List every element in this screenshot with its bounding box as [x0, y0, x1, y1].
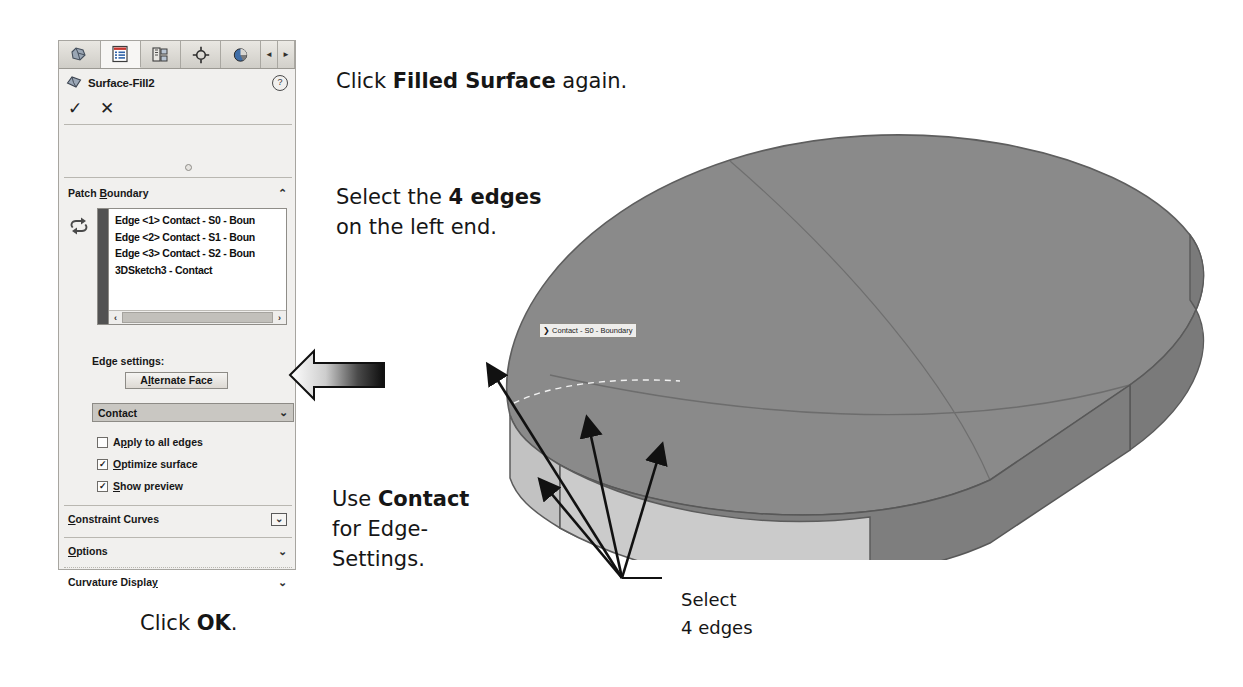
feature-header: Surface-Fill2 ? — [59, 69, 295, 96]
scroll-left-icon[interactable]: ‹ — [109, 313, 122, 323]
tree-icon — [69, 46, 89, 64]
chevron-down-icon[interactable]: ⌄ — [271, 513, 287, 526]
chevron-down-icon[interactable]: ⌄ — [278, 546, 287, 556]
divider-constraint-curves — [64, 505, 292, 506]
leader-arrow-3 — [587, 418, 622, 578]
chevron-up-icon[interactable]: ⌃ — [278, 188, 287, 198]
resize-grip-icon[interactable] — [185, 164, 192, 171]
patch-boundary-listbox[interactable]: Edge <1> Contact - S0 - Boun Edge <2> Co… — [97, 208, 287, 325]
appearances-sphere-icon — [232, 46, 250, 64]
checkbox-label: Optimize surface — [113, 458, 198, 470]
listbox-items: Edge <1> Contact - S0 - Boun Edge <2> Co… — [109, 209, 286, 324]
section-title-curvature-display: Curvature Display — [68, 576, 158, 588]
tab-configuration-manager[interactable] — [141, 41, 182, 68]
tab-dimxpert-manager[interactable] — [181, 41, 221, 68]
leader-arrow-1 — [488, 365, 622, 578]
list-item[interactable]: Edge <2> Contact - S1 - Boun — [115, 229, 286, 246]
property-manager-tab-strip: ◄ ► — [59, 41, 295, 69]
help-icon[interactable]: ? — [272, 75, 288, 91]
chevron-down-icon[interactable]: ⌄ — [278, 577, 287, 587]
surface-fill-icon — [66, 75, 82, 90]
tab-display-manager[interactable] — [221, 41, 261, 68]
annotation-click-ok: Click OK. — [140, 608, 238, 638]
annotation-use-contact-line1: Use Contact — [332, 484, 469, 514]
annotation-select-label-line1: Select — [681, 587, 737, 613]
listbox-horizontal-scrollbar[interactable]: ‹ › — [109, 310, 286, 324]
dropdown-value: Contact — [98, 407, 137, 419]
listbox-vertical-scrollbar[interactable] — [98, 209, 109, 324]
annotation-use-contact-line3: Settings. — [332, 544, 425, 574]
checkbox-apply-to-all-edges[interactable]: Apply to all edges — [97, 436, 203, 448]
property-manager-panel: ◄ ► Surface-Fill2 ? ✓ ✕ Patch Boundary ⌃ — [58, 40, 296, 570]
edge-leader-arrows — [430, 300, 830, 630]
divider-patch-boundary — [64, 177, 292, 178]
cancel-button[interactable]: ✕ — [100, 100, 114, 117]
dimxpert-target-icon — [192, 46, 210, 64]
annotation-select-label-line2: 4 edges — [681, 615, 753, 641]
edge-settings-dropdown[interactable]: Contact ⌄ — [92, 403, 294, 422]
feature-title: Surface-Fill2 — [88, 77, 154, 89]
alternate-face-button[interactable]: Alternate Face — [125, 372, 228, 389]
annotation-select-4-edges-line2: on the left end. — [336, 212, 497, 242]
checkbox-label: Show preview — [113, 480, 183, 492]
tab-property-manager[interactable] — [101, 41, 141, 68]
patch-boundary-selection-row: Edge <1> Contact - S0 - Boun Edge <2> Co… — [59, 206, 295, 328]
checkbox-box[interactable] — [97, 437, 108, 448]
section-title-patch-boundary: Patch Boundary — [68, 187, 149, 199]
list-item[interactable]: Edge <3> Contact - S2 - Boun — [115, 245, 286, 262]
tab-feature-manager-tree[interactable] — [59, 41, 101, 68]
section-curvature-display[interactable]: Curvature Display ⌄ — [59, 572, 295, 592]
checkbox-box[interactable]: ✓ — [97, 481, 108, 492]
section-patch-boundary[interactable]: Patch Boundary ⌃ — [59, 183, 295, 203]
property-list-icon — [111, 45, 129, 63]
section-title-constraint-curves: Constraint Curves — [68, 513, 159, 525]
section-options[interactable]: Options ⌄ — [59, 541, 295, 561]
annotation-use-contact-line2: for Edge- — [332, 514, 428, 544]
annotation-click-filled-surface: Click Filled Surface again. — [336, 66, 627, 96]
edge-settings-label: Edge settings: — [92, 355, 164, 367]
checkbox-box[interactable]: ✓ — [97, 459, 108, 470]
chevron-down-icon[interactable]: ⌄ — [279, 408, 288, 417]
divider-top — [64, 124, 292, 125]
checkbox-label: Apply to all edges — [113, 436, 203, 448]
divider-curvature-display — [64, 567, 292, 568]
edge-selection-icon — [68, 216, 90, 236]
list-item[interactable]: 3DSketch3 - Contact — [115, 262, 286, 279]
callout-block-arrow — [288, 347, 386, 403]
list-item[interactable]: Edge <1> Contact - S0 - Boun — [115, 212, 286, 229]
tab-scroll-next-button[interactable]: ► — [278, 41, 295, 68]
ok-button[interactable]: ✓ — [68, 100, 82, 117]
section-constraint-curves[interactable]: Constraint Curves ⌄ — [59, 509, 295, 529]
checkbox-optimize-surface[interactable]: ✓ Optimize surface — [97, 458, 198, 470]
configuration-icon — [151, 46, 170, 64]
annotation-select-4-edges-line1: Select the 4 edges — [336, 182, 542, 212]
scroll-right-icon[interactable]: › — [273, 313, 286, 323]
scrollbar-thumb[interactable] — [122, 312, 273, 323]
section-title-options: Options — [68, 545, 108, 557]
ok-cancel-bar: ✓ ✕ — [59, 96, 295, 120]
leader-arrow-4 — [622, 445, 662, 578]
checkbox-show-preview[interactable]: ✓ Show preview — [97, 480, 183, 492]
tab-scroll-prev-button[interactable]: ◄ — [261, 41, 278, 68]
leader-arrow-2 — [540, 480, 622, 578]
divider-options — [64, 537, 292, 538]
